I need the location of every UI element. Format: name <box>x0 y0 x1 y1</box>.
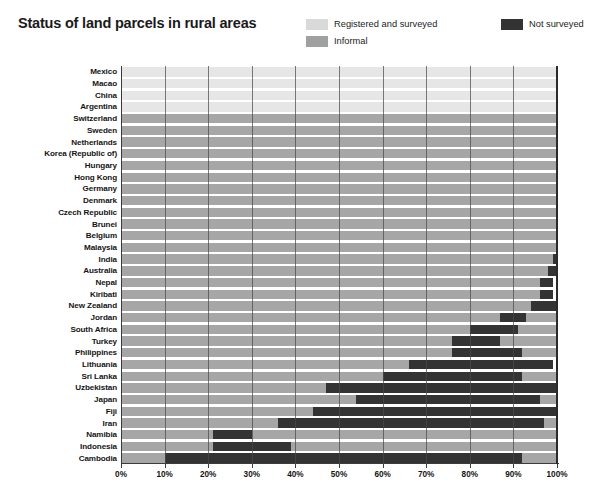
bar-segment-informal <box>121 407 313 416</box>
bar-segment-informal <box>121 453 165 462</box>
x-tick-100pct <box>557 464 558 468</box>
bar-segment-informal <box>121 290 540 299</box>
bar-segment-informal <box>121 137 557 146</box>
bar-row[interactable] <box>121 407 557 416</box>
x-axis-label-10pct: 10% <box>156 470 172 479</box>
bar-row[interactable] <box>121 395 557 404</box>
bar-segment-informal <box>121 360 409 369</box>
bar-row[interactable] <box>121 114 557 123</box>
bar-segment-informal <box>121 278 540 287</box>
bar-row[interactable] <box>121 196 557 205</box>
bar-segment-informal <box>121 325 470 334</box>
bar-row[interactable] <box>121 418 557 427</box>
bar-row[interactable] <box>121 79 557 88</box>
bar-segment-informal <box>518 325 557 334</box>
y-axis-label-hong-kong: Hong Kong <box>0 173 117 182</box>
bar-segment-informal <box>121 126 557 135</box>
y-axis-label-belgium: Belgium <box>0 231 117 240</box>
y-axis-label-australia: Australia <box>0 266 117 275</box>
x-tick-0pct <box>121 464 122 468</box>
y-axis-label-turkey: Turkey <box>0 337 117 346</box>
bar-segment-informal <box>522 348 557 357</box>
x-axis-label-70pct: 70% <box>418 470 434 479</box>
x-tick-60pct <box>383 464 384 468</box>
bar-segment-informal <box>121 372 383 381</box>
bar-segment-informal <box>121 196 557 205</box>
bar-row[interactable] <box>121 149 557 158</box>
bar-row[interactable] <box>121 219 557 228</box>
bar-row[interactable] <box>121 325 557 334</box>
bar-segment-registered <box>121 102 557 111</box>
chart-header: Status of land parcels in rural areas Re… <box>0 0 590 58</box>
legend-swatch-informal-icon <box>306 36 328 47</box>
bar-row[interactable] <box>121 126 557 135</box>
bar-segment-informal <box>121 161 557 170</box>
bar-row[interactable] <box>121 336 557 345</box>
legend-item-registered-and-surveyed: Registered and surveyed <box>306 19 437 30</box>
y-axis-label-jordan: Jordan <box>0 313 117 322</box>
legend-label-not-surveyed: Not surveyed <box>529 19 584 30</box>
y-axis-label-brunei: Brunei <box>0 220 117 229</box>
bar-segment-informal <box>121 114 557 123</box>
x-tick-80pct <box>470 464 471 468</box>
y-axis-label-lithuania: Lithuania <box>0 360 117 369</box>
y-axis-label-sweden: Sweden <box>0 126 117 135</box>
bar-row[interactable] <box>121 91 557 100</box>
y-axis-label-mexico: Mexico <box>0 67 117 76</box>
bar-segment-informal <box>526 313 557 322</box>
bar-row[interactable] <box>121 102 557 111</box>
bar-row[interactable] <box>121 161 557 170</box>
bar-row[interactable] <box>121 360 557 369</box>
bar-segment-informal <box>121 336 452 345</box>
bar-segment-informal <box>121 149 557 158</box>
bar-segment-informal <box>121 208 557 217</box>
bar-segment-informal <box>121 313 500 322</box>
bar-row[interactable] <box>121 254 557 263</box>
y-axis-label-new-zealand: New Zealand <box>0 301 117 310</box>
bar-row[interactable] <box>121 290 557 299</box>
y-axis-label-kiribati: Kiribati <box>0 290 117 299</box>
bar-segment-informal <box>252 430 557 439</box>
bar-row[interactable] <box>121 348 557 357</box>
bar-row[interactable] <box>121 231 557 240</box>
bar-row[interactable] <box>121 67 557 76</box>
bar-segment-not-surveyed <box>213 442 291 451</box>
bar-row[interactable] <box>121 278 557 287</box>
bar-row[interactable] <box>121 137 557 146</box>
legend-swatch-not-surveyed-icon <box>501 19 523 30</box>
y-axis-label-czech-republic: Czech Republic <box>0 208 117 217</box>
bar-segment-not-surveyed <box>326 383 557 392</box>
bar-row[interactable] <box>121 430 557 439</box>
bar-row[interactable] <box>121 208 557 217</box>
x-tick-90pct <box>513 464 514 468</box>
bar-segment-not-surveyed <box>553 254 557 263</box>
bar-segment-not-surveyed <box>409 360 553 369</box>
bar-row[interactable] <box>121 184 557 193</box>
bar-segment-registered <box>121 79 557 88</box>
bar-row[interactable] <box>121 383 557 392</box>
bar-row[interactable] <box>121 243 557 252</box>
bar-row[interactable] <box>121 266 557 275</box>
y-axis-label-fiji: Fiji <box>0 407 117 416</box>
bar-row[interactable] <box>121 301 557 310</box>
bar-row[interactable] <box>121 453 557 462</box>
bar-row[interactable] <box>121 173 557 182</box>
bar-row[interactable] <box>121 313 557 322</box>
bar-segment-informal <box>540 395 557 404</box>
y-axis-label-japan: Japan <box>0 395 117 404</box>
bar-segment-informal <box>121 383 326 392</box>
bar-segment-informal <box>121 243 557 252</box>
bar-segment-informal <box>121 418 278 427</box>
y-axis-label-denmark: Denmark <box>0 196 117 205</box>
bar-segment-not-surveyed <box>356 395 539 404</box>
bar-row[interactable] <box>121 372 557 381</box>
y-axis-label-netherlands: Netherlands <box>0 138 117 147</box>
y-axis-label-namibia: Namibia <box>0 430 117 439</box>
bar-segment-not-surveyed <box>540 290 553 299</box>
y-axis-label-india: India <box>0 255 117 264</box>
y-axis-label-south-africa: South Africa <box>0 325 117 334</box>
y-axis-label-germany: Germany <box>0 184 117 193</box>
bar-segment-informal <box>121 301 531 310</box>
bar-row[interactable] <box>121 442 557 451</box>
stacked-bar-rows <box>121 66 557 464</box>
